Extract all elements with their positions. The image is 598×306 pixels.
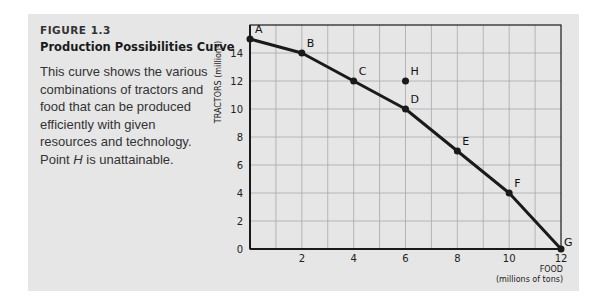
point-label-d: D bbox=[411, 93, 419, 106]
x-axis-label-line2: (millions of tons) bbox=[496, 275, 563, 284]
x-tick-label: 4 bbox=[350, 253, 356, 264]
data-point-d bbox=[402, 106, 409, 113]
x-tick-label: 10 bbox=[503, 253, 516, 264]
x-tick-label: 6 bbox=[402, 253, 408, 264]
data-point-c bbox=[350, 78, 357, 85]
y-tick-label: 6 bbox=[237, 160, 243, 171]
data-points: ABCDEFGH bbox=[247, 23, 573, 253]
point-label-a: A bbox=[255, 23, 263, 36]
data-point-e bbox=[454, 148, 461, 155]
chart-grid bbox=[250, 25, 561, 249]
y-tick-label: 4 bbox=[237, 188, 243, 199]
production-possibilities-chart: 2468101202468101214 ABCDEFGH TRACTORS (m… bbox=[0, 0, 598, 306]
data-point-b bbox=[298, 50, 305, 57]
point-label-c: C bbox=[359, 65, 367, 78]
point-label-b: B bbox=[307, 37, 315, 50]
point-label-h: H bbox=[411, 65, 419, 78]
x-tick-label: 2 bbox=[299, 253, 305, 264]
y-tick-label: 0 bbox=[237, 244, 243, 255]
point-label-f: F bbox=[514, 177, 520, 190]
y-tick-label: 14 bbox=[230, 48, 243, 59]
point-label-e: E bbox=[462, 135, 469, 148]
point-label-g: G bbox=[564, 236, 573, 249]
data-point-a bbox=[247, 36, 254, 43]
y-axis-label: TRACTORS (millions) bbox=[214, 41, 223, 124]
axis-ticks: 2468101202468101214 bbox=[230, 48, 567, 264]
y-tick-label: 12 bbox=[230, 76, 243, 87]
data-point-f bbox=[506, 190, 513, 197]
x-tick-label: 8 bbox=[454, 253, 460, 264]
y-tick-label: 2 bbox=[237, 216, 243, 227]
y-tick-label: 10 bbox=[230, 104, 243, 115]
x-tick-label: 12 bbox=[555, 253, 568, 264]
x-axis-label-line1: FOOD bbox=[540, 265, 563, 274]
y-tick-label: 8 bbox=[237, 132, 243, 143]
data-point-h bbox=[402, 78, 409, 85]
